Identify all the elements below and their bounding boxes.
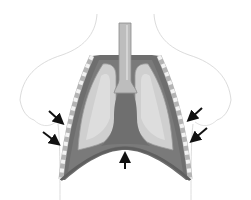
arrow-right-lower-icon xyxy=(194,128,207,139)
arrow-left-lower-icon xyxy=(43,132,56,142)
arrow-left-upper-icon xyxy=(49,111,60,121)
thorax-illustration xyxy=(0,0,251,200)
armpit-left xyxy=(34,120,56,126)
thorax-diagram: Thoracic cavity - inhalation xyxy=(0,0,251,200)
arrow-right-upper-icon xyxy=(191,108,202,118)
armpit-right xyxy=(195,120,217,126)
